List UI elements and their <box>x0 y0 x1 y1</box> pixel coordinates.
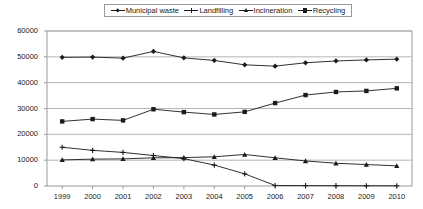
data-point-marker <box>151 107 155 111</box>
data-point-marker <box>60 119 64 123</box>
y-axis-tick-label: 30000 <box>2 105 38 113</box>
y-axis-tick-label: 20000 <box>2 130 38 138</box>
data-point-marker <box>364 89 368 93</box>
x-axis-tick-label: 2006 <box>258 193 292 201</box>
data-point-marker <box>243 110 247 114</box>
plot-area <box>0 0 423 209</box>
x-axis-tick-label: 2000 <box>76 193 110 201</box>
y-axis-tick-label: 0 <box>2 182 38 190</box>
y-axis-tick-label: 40000 <box>2 79 38 87</box>
x-axis-tick-label: 2003 <box>167 193 201 201</box>
x-axis-tick-label: 2005 <box>228 193 262 201</box>
data-point-marker <box>303 93 307 97</box>
data-point-marker <box>90 117 94 121</box>
x-axis-tick-label: 2002 <box>136 193 170 201</box>
x-axis-tick-label: 2009 <box>349 193 383 201</box>
x-axis-tick-label: 1999 <box>45 193 79 201</box>
x-axis-tick-label: 2001 <box>106 193 140 201</box>
y-axis-tick-label: 60000 <box>2 27 38 35</box>
data-point-marker <box>334 90 338 94</box>
x-axis-tick-label: 2004 <box>197 193 231 201</box>
x-axis-tick-label: 2008 <box>319 193 353 201</box>
y-axis-tick-label: 10000 <box>2 156 38 164</box>
data-point-marker <box>212 112 216 116</box>
waste-management-line-chart: Municipal wasteLandfillingIncinerationRe… <box>0 0 423 209</box>
data-point-marker <box>121 118 125 122</box>
x-axis-tick-label: 2010 <box>380 193 414 201</box>
data-point-marker <box>273 101 277 105</box>
data-point-marker <box>182 110 186 114</box>
x-axis-tick-label: 2007 <box>289 193 323 201</box>
y-axis-tick-label: 50000 <box>2 53 38 61</box>
data-point-marker <box>395 86 399 90</box>
